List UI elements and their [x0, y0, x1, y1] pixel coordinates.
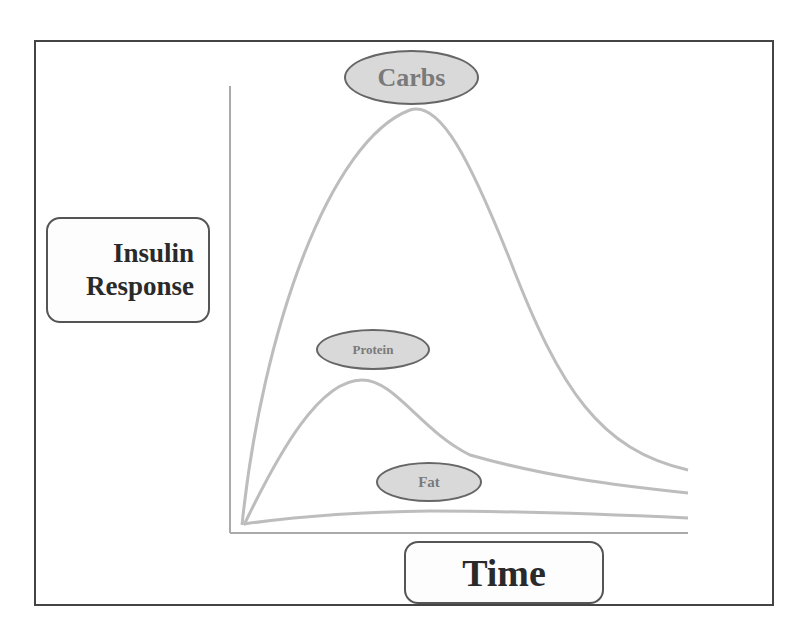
fat-label: Fat [376, 462, 482, 502]
carbs-curve [242, 109, 688, 525]
y-axis-label-line2: Response [86, 270, 194, 303]
protein-label: Protein [316, 329, 430, 370]
y-axis-label-box: Insulin Response [46, 217, 210, 323]
x-axis-label-box: Time [404, 541, 604, 604]
y-axis-label-line1: Insulin [113, 237, 194, 270]
fat-curve [244, 511, 688, 524]
protein-curve [244, 380, 688, 525]
carbs-label: Carbs [344, 50, 479, 105]
x-axis-label: Time [462, 551, 546, 595]
